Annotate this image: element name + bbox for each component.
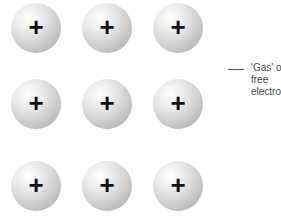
positive-ion: + (153, 161, 203, 211)
positive-ion: + (82, 3, 132, 53)
positive-ion: + (153, 79, 203, 129)
positive-ion: + (82, 161, 132, 211)
positive-ion: + (11, 161, 61, 211)
positive-ion: + (11, 79, 61, 129)
label-leader-line (228, 69, 244, 70)
positive-ion: + (11, 3, 61, 53)
positive-ion: + (153, 3, 203, 53)
positive-ion: + (82, 79, 132, 129)
electron-gas-label: 'Gas' of free electrons (251, 62, 281, 98)
